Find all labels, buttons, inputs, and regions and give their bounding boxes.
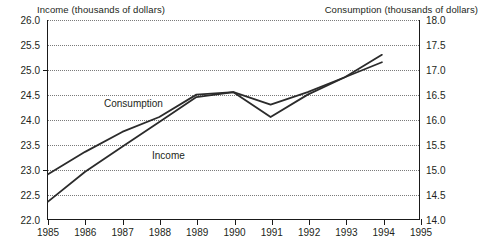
x-tick-label: 1993 (335, 227, 357, 238)
x-tick-label: 1991 (261, 227, 283, 238)
x-tick-mark (197, 219, 198, 225)
series-line-income (48, 55, 382, 202)
x-tick-mark (384, 219, 385, 225)
x-tick-label: 1986 (74, 227, 96, 238)
left-tick-label: 25.0 (21, 65, 40, 76)
series-lines (48, 20, 419, 219)
x-tick-mark (48, 219, 49, 225)
series-line-consumption (48, 62, 382, 174)
right-tick-label: 14.5 (426, 190, 445, 201)
x-tick-label: 1994 (373, 227, 395, 238)
right-tick-label: 15.5 (426, 140, 445, 151)
right-tick-label: 18.0 (426, 15, 445, 26)
right-tick-label: 15.0 (426, 165, 445, 176)
x-tick-mark (123, 219, 124, 225)
left-tick-label: 24.0 (21, 115, 40, 126)
x-tick-label: 1995 (410, 227, 432, 238)
x-tick-label: 1990 (223, 227, 245, 238)
x-tick-mark (346, 219, 347, 225)
x-tick-mark (272, 219, 273, 225)
left-tick-label: 23.0 (21, 165, 40, 176)
left-tick-label: 23.5 (21, 140, 40, 151)
left-tick-label: 25.5 (21, 40, 40, 51)
right-axis-title: Consumption (thousands of dollars) (325, 4, 478, 15)
right-tick-label: 17.0 (426, 65, 445, 76)
right-tick-label: 17.5 (426, 40, 445, 51)
x-tick-mark (309, 219, 310, 225)
plot-area: 26.025.525.024.524.023.523.022.522.0 18.… (47, 20, 420, 220)
x-tick-label: 1988 (149, 227, 171, 238)
x-tick-label: 1987 (111, 227, 133, 238)
right-tick-label: 14.0 (426, 215, 445, 226)
left-axis-title: Income (thousands of dollars) (37, 4, 165, 15)
left-tick-label: 26.0 (21, 15, 40, 26)
right-tick-label: 16.5 (426, 90, 445, 101)
series-annotation-income: Income (151, 150, 186, 161)
x-tick-label: 1989 (186, 227, 208, 238)
left-tick-label: 22.5 (21, 190, 40, 201)
left-tick-label: 24.5 (21, 90, 40, 101)
left-tick-label: 22.0 (21, 215, 40, 226)
x-tick-mark (85, 219, 86, 225)
series-annotation-consumption: Consumption (103, 98, 164, 109)
right-tick-label: 16.0 (426, 115, 445, 126)
x-tick-label: 1992 (298, 227, 320, 238)
x-tick-mark (160, 219, 161, 225)
x-tick-label: 1985 (37, 227, 59, 238)
chart-figure: Income (thousands of dollars) Consumptio… (0, 0, 487, 248)
x-tick-mark (421, 219, 422, 225)
x-tick-mark (235, 219, 236, 225)
